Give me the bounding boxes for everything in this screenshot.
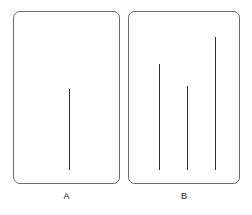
standard-line: [69, 89, 70, 170]
panel-a-card: [13, 11, 120, 184]
panel-b-card: [128, 11, 240, 184]
panel-b-label: B: [128, 192, 240, 201]
panel-a-label: A: [13, 192, 120, 201]
comparison-line-2: [187, 86, 188, 170]
comparison-line-3: [215, 37, 216, 170]
line-comparison-figure: A B: [0, 0, 252, 215]
comparison-line-1: [159, 64, 160, 170]
